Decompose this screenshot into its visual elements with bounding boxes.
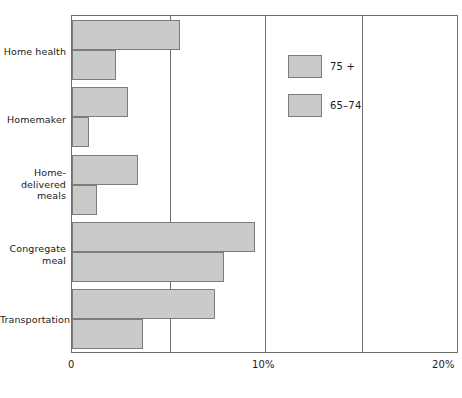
legend-label-65-74: 65–74 [330,100,361,111]
bar-transportation-75 [72,289,215,319]
gridline-15-percent [362,16,363,352]
bar-home-health-65-74 [72,50,116,80]
legend-swatch-75-plus [288,55,322,78]
bar-transportation-65-74 [72,319,143,349]
y-axis-label-home-delivered-line2: delivered [0,179,66,191]
legend-item-75-plus: 75 + [288,55,355,78]
y-axis-label-home-health: Home health [0,46,66,58]
x-tick-10: 10% [252,359,275,370]
gridline-10-percent [265,16,266,352]
bar-chart: Home health Homemaker Home- delivered me… [0,0,462,398]
y-axis-label-transportation-text: Transportation [0,314,70,325]
y-axis-label-congregate-line1: Congregate [0,243,66,255]
x-tick-0: 0 [68,359,75,370]
bar-home-delivered-meals-75 [72,155,138,185]
bar-home-health-75 [72,20,180,50]
legend-label-75-plus: 75 + [330,61,355,72]
y-axis-label-homemaker: Homemaker [0,114,66,126]
y-axis-label-homemaker-text: Homemaker [7,114,66,125]
bar-congregate-meal-75 [72,222,255,252]
bar-congregate-meal-65-74 [72,252,224,282]
x-axis-tick-labels: 0 10% 20% [0,353,462,377]
x-tick-20: 20% [432,359,455,370]
bar-homemaker-75 [72,87,128,117]
y-axis-label-home-delivered-line3: meals [0,190,66,202]
y-axis-label-home-delivered-meals: Home- delivered meals [0,167,66,202]
y-axis-label-congregate-line2: meal [0,255,66,267]
y-axis-category-labels: Home health Homemaker Home- delivered me… [0,15,66,353]
bar-home-delivered-meals-65-74 [72,185,97,215]
legend-swatch-65-74 [288,94,322,117]
y-axis-label-home-health-text: Home health [4,46,66,57]
legend-item-65-74: 65–74 [288,94,361,117]
y-axis-label-home-delivered-line1: Home- [0,167,66,179]
bar-homemaker-65-74 [72,117,89,147]
y-axis-label-transportation: Transportation [0,314,66,326]
y-axis-label-congregate-meal: Congregate meal [0,243,66,266]
plot-area [71,15,458,353]
